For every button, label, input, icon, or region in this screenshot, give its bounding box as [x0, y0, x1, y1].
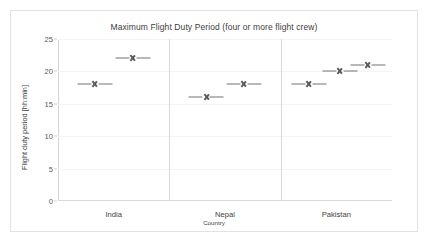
marker-x-icon: [203, 94, 210, 101]
data-point-marker: [77, 80, 112, 89]
marker-whisker-left: [291, 84, 305, 85]
gridline: [58, 39, 392, 40]
chart-title: Maximum Flight Duty Period (four or more…: [11, 22, 417, 32]
category-label-nepal: Nepal: [215, 210, 235, 219]
marker-x-icon: [129, 55, 136, 62]
gridline: [58, 169, 392, 170]
marker-whisker-left: [189, 97, 203, 98]
panel-separator: [169, 39, 170, 201]
category-label-india: India: [105, 210, 121, 219]
marker-x-icon: [364, 61, 371, 68]
data-point-marker: [291, 80, 326, 89]
marker-whisker-right: [136, 58, 150, 59]
y-axis-tick-mark: [54, 201, 57, 202]
data-point-marker: [189, 93, 224, 102]
marker-whisker-right: [343, 71, 357, 72]
plot-area: 0510152025 IndiaNepalPakistan: [58, 39, 392, 201]
y-axis-tick-mark: [54, 71, 57, 72]
marker-whisker-left: [226, 84, 240, 85]
y-axis-line: [58, 39, 59, 201]
y-axis-tick-label: 20: [45, 67, 53, 76]
y-axis-tick-label: 5: [49, 164, 53, 173]
y-axis-tick-label: 25: [45, 35, 53, 44]
data-point-marker: [115, 54, 150, 63]
marker-whisker-right: [371, 64, 385, 65]
marker-whisker-right: [247, 84, 261, 85]
marker-x-icon: [240, 81, 247, 88]
y-axis-tick-label: 10: [45, 132, 53, 141]
gridline: [58, 136, 392, 137]
marker-whisker-right: [312, 84, 326, 85]
marker-whisker-left: [77, 84, 91, 85]
marker-whisker-left: [350, 64, 364, 65]
marker-x-icon: [336, 68, 343, 75]
marker-whisker-right: [98, 84, 112, 85]
category-label-pakistan: Pakistan: [322, 210, 351, 219]
data-point-marker: [226, 80, 261, 89]
marker-x-icon: [91, 81, 98, 88]
y-axis-title: Flight duty period [hh:min]: [20, 73, 29, 183]
data-point-marker: [350, 60, 385, 69]
y-axis-tick-mark: [54, 168, 57, 169]
y-axis-tick-mark: [54, 39, 57, 40]
x-axis-title: Country: [11, 219, 417, 226]
marker-x-icon: [305, 81, 312, 88]
marker-whisker-right: [210, 97, 224, 98]
marker-whisker-left: [115, 58, 129, 59]
panel-separator: [281, 39, 282, 201]
gridline: [58, 104, 392, 105]
y-axis-tick-mark: [54, 136, 57, 137]
y-axis-tick-mark: [54, 103, 57, 104]
marker-whisker-left: [322, 71, 336, 72]
y-axis-tick-label: 0: [49, 197, 53, 206]
y-axis-tick-label: 15: [45, 99, 53, 108]
x-axis-line: [58, 200, 392, 201]
chart-frame: Maximum Flight Duty Period (four or more…: [10, 10, 418, 232]
